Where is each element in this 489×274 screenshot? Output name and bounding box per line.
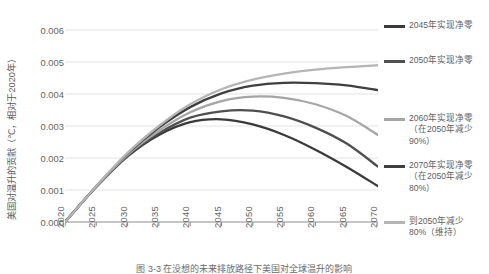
x-axis-tick-marks: [65, 222, 378, 226]
legend-item-2[interactable]: 2050年实现净零: [384, 55, 489, 66]
y-tick-label: 0.002: [22, 153, 64, 164]
legend-swatch-icon: [384, 221, 405, 224]
legend-label: 2070年实现净零 （在2050年减少 80%）: [409, 160, 489, 194]
series-lines: [65, 65, 378, 222]
legend-label: 2050年实现净零: [409, 55, 489, 66]
legend-label: 2060年实现净零 （在2050年减少 90%）: [409, 113, 489, 147]
y-axis-title: 美国对温升的贡献（℃，相对于2020年）: [0, 0, 22, 274]
plot-area: [65, 0, 378, 250]
chart-svg: [65, 0, 378, 250]
legend-item-3[interactable]: 2060年实现净零 （在2050年减少 90%）: [384, 113, 489, 147]
legend-swatch-icon: [384, 165, 405, 168]
figure-container: 美国对温升的贡献（℃，相对于2020年） 0.0000.0010.0020.00…: [0, 0, 489, 274]
figure-caption: 图 3-3 在没想的未来排放路径下美国对全球温升的影响: [0, 262, 489, 274]
y-tick-label: 0.004: [22, 89, 64, 100]
legend-item-1[interactable]: 2045年实现净零: [384, 20, 489, 31]
plot-wrapper: 0.0000.0010.0020.0030.0040.0050.006 2020…: [22, 0, 382, 250]
y-tick-label: 0.001: [22, 185, 64, 196]
y-tick-label: 0.006: [22, 25, 64, 36]
y-axis-tick-labels: 0.0000.0010.0020.0030.0040.0050.006: [22, 0, 64, 250]
legend-label: 到2050年减少 80%（维持）: [409, 216, 489, 239]
legend-item-5[interactable]: 到2050年减少 80%（维持）: [384, 216, 489, 239]
legend-item-4[interactable]: 2070年实现净零 （在2050年减少 80%）: [384, 160, 489, 194]
legend-label: 2045年实现净零: [409, 20, 489, 31]
legend-swatch-icon: [384, 60, 405, 63]
y-tick-label: 0.005: [22, 57, 64, 68]
series-line-4: [65, 83, 378, 222]
legend-swatch-icon: [384, 118, 405, 121]
series-line-5: [65, 65, 378, 222]
chart-legend: 2045年实现净零2050年实现净零2060年实现净零 （在2050年减少 90…: [384, 8, 489, 248]
legend-swatch-icon: [384, 25, 405, 28]
series-line-2: [65, 110, 378, 222]
y-tick-label: 0.000: [22, 217, 64, 228]
y-tick-label: 0.003: [22, 121, 64, 132]
